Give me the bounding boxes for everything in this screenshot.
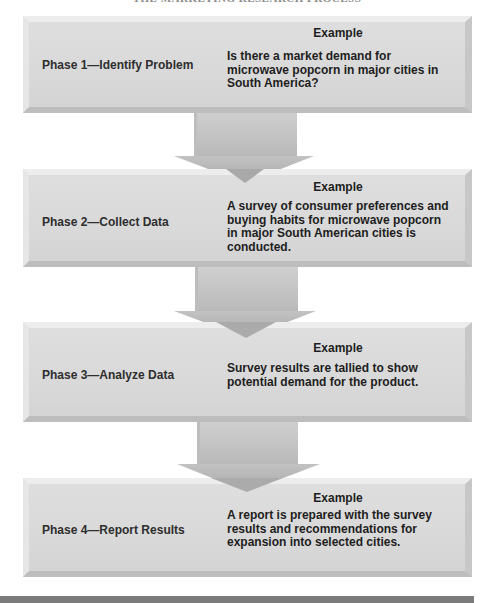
arrow-tips bbox=[0, 0, 494, 603]
